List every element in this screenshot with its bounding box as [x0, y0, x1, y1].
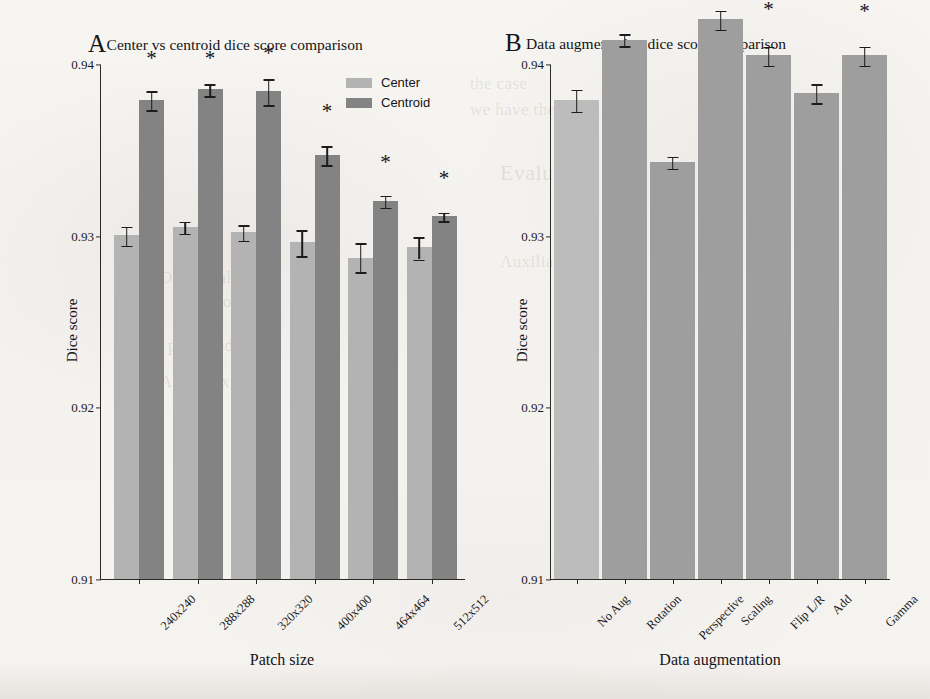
legend-swatch-center-icon — [346, 78, 372, 88]
ytick-mark — [96, 408, 101, 409]
ytick-mark — [546, 64, 551, 65]
xtick-label-240x240: 240x240 — [158, 592, 200, 634]
errorbar-center-288x288 — [184, 222, 186, 234]
bar-centroid-512x512 — [432, 216, 457, 579]
bar-centroid-464x464 — [373, 201, 398, 579]
bar-rotation — [602, 40, 647, 579]
errorbar-cap-top — [715, 11, 726, 13]
errorbar-cap-bottom — [763, 66, 774, 68]
errorbar-centroid-320x320 — [268, 79, 270, 105]
ytick-label: 0.91 — [521, 572, 544, 588]
errorbar-centroid-240x240 — [151, 91, 153, 110]
errorbar-cap-bottom — [355, 272, 366, 274]
bar-center-400x400 — [290, 242, 315, 579]
xtick-mark — [198, 579, 199, 584]
xtick-mark — [769, 579, 770, 584]
ytick-label: 0.91 — [71, 572, 94, 588]
xtick-mark — [373, 579, 374, 584]
errorbar-cap-top — [180, 222, 191, 224]
panel-b-ylabel: Dice score — [514, 251, 531, 411]
significance-star-288x288: * — [205, 48, 216, 69]
errorbar-cap-bottom — [571, 112, 582, 114]
ytick-mark — [546, 579, 551, 580]
significance-star-464x464: * — [380, 152, 391, 173]
errorbar-cap-bottom — [121, 246, 132, 248]
bar-center-288x288 — [173, 227, 198, 579]
errorbar-cap-top — [146, 91, 157, 93]
errorbar-perspective — [672, 157, 674, 169]
bar-center-240x240 — [114, 235, 139, 579]
xtick-mark — [577, 579, 578, 584]
bar-add — [794, 93, 839, 579]
errorbar-cap-top — [297, 230, 308, 232]
ytick-label: 0.93 — [521, 229, 544, 245]
errorbar-cap-bottom — [238, 241, 249, 243]
ytick-mark — [96, 236, 101, 237]
panel-a-axes: 0.94 0.93 0.92 0.91 * — [100, 65, 465, 580]
panel-b-letter: B — [505, 29, 522, 56]
xtick-label-no-aug: No Aug — [594, 592, 632, 630]
errorbar-centroid-464x464 — [385, 196, 387, 208]
errorbar-rotation — [624, 34, 626, 46]
panel-b-axes: 0.94 0.93 0.92 0.91 * — [550, 65, 890, 580]
errorbar-cap-top — [121, 227, 132, 229]
legend-label-center: Center — [381, 75, 420, 90]
errorbar-cap-top — [205, 84, 216, 86]
errorbar-cap-bottom — [859, 66, 870, 68]
ytick-mark — [96, 579, 101, 580]
xtick-mark — [315, 579, 316, 584]
bar-flip-lr — [746, 55, 791, 579]
xtick-label-rotation: Rotation — [643, 592, 684, 633]
errorbar-cap-top — [414, 237, 425, 239]
legend-label-centroid: Centroid — [381, 95, 430, 110]
ytick-mark — [546, 408, 551, 409]
errorbar-center-512x512 — [418, 237, 420, 259]
xtick-label-320x320: 320x320 — [275, 592, 317, 634]
significance-star-512x512: * — [439, 168, 450, 189]
errorbar-cap-bottom — [667, 169, 678, 171]
xtick-mark — [865, 579, 866, 584]
ytick-mark — [546, 236, 551, 237]
legend-item-center: Center — [346, 75, 430, 90]
errorbar-cap-bottom — [297, 256, 308, 258]
errorbar-center-240x240 — [126, 227, 128, 246]
panel-a-letter: A — [88, 30, 107, 57]
panel-a-legend: Center Centroid — [346, 75, 430, 110]
ytick-label: 0.94 — [521, 57, 544, 73]
significance-star-240x240: * — [146, 48, 157, 69]
significance-star-320x320: * — [263, 43, 274, 64]
bar-centroid-320x320 — [256, 91, 281, 579]
errorbar-flip-lr — [768, 47, 770, 66]
significance-star-400x400: * — [322, 101, 333, 122]
errorbar-cap-top — [355, 243, 366, 245]
bar-centroid-400x400 — [315, 155, 340, 579]
xtick-label-288x288: 288x288 — [216, 592, 258, 634]
ytick-label: 0.94 — [71, 57, 94, 73]
significance-star-gamma: * — [859, 1, 870, 22]
errorbar-centroid-288x288 — [209, 84, 211, 96]
ytick-label: 0.93 — [71, 229, 94, 245]
panel-b: B Data augmentation dice score compariso… — [470, 0, 930, 699]
xtick-mark — [673, 579, 674, 584]
errorbar-no-aug — [576, 90, 578, 112]
panel-b-title-text: Data augmentation dice score comparison — [526, 35, 786, 52]
errorbar-cap-bottom — [322, 165, 333, 167]
errorbar-cap-bottom — [619, 46, 630, 48]
bar-center-320x320 — [231, 232, 256, 579]
panel-a-title-text: Center vs centroid dice score comparison — [107, 36, 363, 53]
errorbar-cap-bottom — [439, 221, 450, 223]
errorbar-cap-bottom — [380, 208, 391, 210]
xtick-mark — [139, 579, 140, 584]
errorbar-cap-bottom — [205, 96, 216, 98]
bar-center-464x464 — [348, 258, 373, 579]
xtick-label-flip-lr: Flip L/R — [787, 592, 828, 633]
errorbar-center-400x400 — [301, 230, 303, 256]
errorbar-cap-top — [811, 84, 822, 86]
errorbar-gamma — [864, 47, 866, 66]
errorbar-cap-top — [571, 90, 582, 92]
bar-perspective — [650, 162, 695, 580]
bar-no-aug — [554, 100, 599, 579]
xtick-mark — [721, 579, 722, 584]
errorbar-add — [816, 84, 818, 103]
errorbar-cap-bottom — [715, 30, 726, 32]
